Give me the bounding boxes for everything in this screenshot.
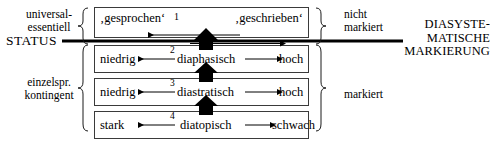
row-4-index: 4: [170, 112, 175, 122]
left-group-universal-line2: essentiell: [10, 21, 88, 34]
left-group-universal-label: universal- essentiell: [10, 8, 88, 33]
status-label: STATUS: [6, 34, 57, 48]
status-rule-row1: [94, 40, 309, 43]
row-2-center-term: diaphasisch: [177, 53, 235, 66]
row-2-right-term: hoch: [279, 53, 303, 66]
figure-title: DIASYSTE- MATISCHE MARKIERUNG: [404, 18, 490, 59]
figure-title-line1: DIASYSTE-: [404, 18, 490, 32]
row-1-left-term: ‚gesprochen‘: [100, 12, 165, 25]
row-2-left-term: niedrig: [100, 53, 135, 66]
row-4-right-term: schwach: [272, 119, 315, 132]
row-2-index: 2: [170, 46, 175, 56]
row-3-left-term: niedrig: [100, 86, 135, 99]
right-group-marked-label: markiert: [344, 89, 383, 101]
right-group-unmarked-line2: markiert: [344, 21, 396, 34]
right-brace-upper: [316, 8, 326, 44]
left-group-universal-line1: universal-: [10, 8, 88, 21]
row-3-center-term: diastratisch: [177, 86, 234, 99]
status-rule-right: [309, 40, 403, 43]
left-group-einzelsprachlich-label: einzelspr. kontingent: [10, 76, 88, 101]
row-4-left-term: stark: [100, 119, 124, 132]
row-3-index: 3: [170, 79, 175, 89]
status-rule-left: [62, 40, 94, 43]
row-1-index: 1: [174, 12, 179, 22]
row-1-right-term: ‚geschrieben‘: [235, 12, 303, 25]
diasystematic-marking-diagram: universal- essentiell STATUS einzelspr. …: [0, 0, 490, 147]
right-group-unmarked-label: nicht markiert: [344, 8, 396, 33]
left-group-einzelsprachlich-line1: einzelspr.: [10, 76, 88, 89]
right-group-unmarked-line1: nicht: [344, 8, 396, 21]
left-group-einzelsprachlich-line2: kontingent: [10, 89, 88, 102]
figure-title-line3: MARKIERUNG: [404, 45, 490, 59]
figure-title-line2: MATISCHE: [404, 32, 490, 46]
right-brace-lower: [316, 45, 326, 131]
row-3-right-term: hoch: [279, 86, 303, 99]
row-4-center-term: diatopisch: [180, 119, 231, 132]
